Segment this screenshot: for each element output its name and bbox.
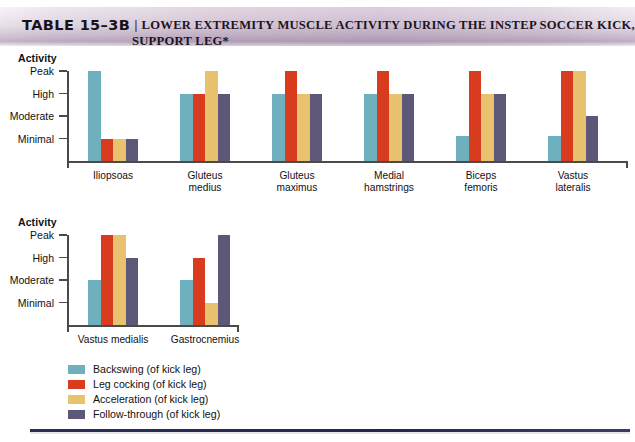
y-axis-tick [59,138,67,140]
legend-label: Follow-through (of kick leg) [93,407,220,422]
legend-label: Leg cocking (of kick leg) [93,377,207,392]
bar [205,303,218,326]
bar [113,139,126,162]
legend-item: Follow-through (of kick leg) [68,407,368,422]
bar [548,136,561,161]
legend-swatch [68,395,85,404]
y-axis-label-moderate: Moderate [10,274,54,286]
bottom-divider-shadow [30,432,630,434]
y-axis-label-peak: Peak [30,65,54,77]
x-axis-category-label: Gluteusmaximus [254,170,340,193]
chart-support-leg-lower: ActivityPeakHighModerateMinimalVastus me… [0,208,635,348]
bar [218,94,231,162]
table-title-line1: LOWER EXTREMITY MUSCLE ACTIVITY DURING T… [142,18,635,32]
x-axis-end-tick [237,325,239,332]
x-axis-category-line: Iliopsoas [70,170,156,182]
x-axis-end-tick [67,161,69,168]
bar [193,94,206,162]
x-axis-line [67,325,239,327]
legend-swatch [68,365,85,374]
chart-axis-title: Activity [18,52,57,64]
legend-swatch [68,410,85,419]
bar [101,235,114,325]
bar [586,116,599,161]
table-header-line1: TABLE 15–3B|LOWER EXTREMITY MUSCLE ACTIV… [22,16,622,33]
x-axis-category-line: Vastus medialis [70,334,156,346]
bar [126,139,139,162]
y-axis-label-high: High [32,88,54,100]
bar [310,94,323,162]
bar [180,94,193,162]
bar [180,280,193,325]
bar [88,280,101,325]
legend-item: Acceleration (of kick leg) [68,392,368,407]
legend-item: Backswing (of kick leg) [68,362,368,377]
bar [469,71,482,161]
x-axis-end-tick [626,161,628,168]
x-axis-category-line: Gastrocnemius [162,334,248,346]
x-axis-category-label: Gluteusmedius [162,170,248,193]
x-axis-category-line: Vastus [530,170,616,182]
bar [285,71,298,161]
bar [205,71,218,161]
y-axis-tick [59,93,67,95]
x-axis-category-label: Iliopsoas [70,170,156,182]
x-axis-line [67,161,628,163]
bar [481,94,494,162]
x-axis-end-tick [67,325,69,332]
table-number: TABLE 15–3B [22,17,130,33]
bar [561,71,574,161]
bar [364,94,377,162]
x-axis-category-line: maximus [254,182,340,194]
bar [494,94,507,162]
x-axis-category-line: Biceps [438,170,524,182]
bar [193,258,206,326]
x-axis-category-line: Medial [346,170,432,182]
y-axis-tick [59,302,67,304]
x-axis-category-label: Medialhamstrings [346,170,432,193]
legend-label: Backswing (of kick leg) [93,362,201,377]
bar [113,235,126,325]
bar [389,94,402,162]
x-axis-category-line: medius [162,182,248,194]
y-axis-label-high: High [32,252,54,264]
x-axis-category-label: Vastus medialis [70,334,156,346]
chart-support-leg-upper: ActivityPeakHighModerateMinimalIliopsoas… [0,52,635,192]
bar [297,94,310,162]
x-axis-category-line: hamstrings [346,182,432,194]
legend-swatch [68,380,85,389]
legend-label: Acceleration (of kick leg) [93,392,208,407]
y-axis-tick [59,279,67,281]
bar [126,258,139,326]
y-axis-tick [59,234,67,236]
x-axis-category-line: Gluteus [162,170,248,182]
x-axis-category-line: femoris [438,182,524,194]
bar [456,136,469,161]
y-axis-tick [59,257,67,259]
bar [573,71,586,161]
y-axis-label-minimal: Minimal [18,297,54,309]
x-axis-category-label: Bicepsfemoris [438,170,524,193]
bar [218,235,231,325]
bar [377,71,390,161]
bar [402,94,415,162]
y-axis-tick [59,70,67,72]
y-axis-line [67,71,69,163]
header-separator: | [130,17,141,32]
x-axis-category-line: Gluteus [254,170,340,182]
table-header-text: TABLE 15–3B|LOWER EXTREMITY MUSCLE ACTIV… [22,16,622,49]
bar [272,94,285,162]
x-axis-category-label: Gastrocnemius [162,334,248,346]
chart-legend: Backswing (of kick leg)Leg cocking (of k… [68,362,368,422]
y-axis-tick [59,115,67,117]
chart-axis-title: Activity [18,216,57,228]
y-axis-label-minimal: Minimal [18,133,54,145]
y-axis-line [67,235,69,327]
table-figure-page: TABLE 15–3B|LOWER EXTREMITY MUSCLE ACTIV… [0,0,635,442]
y-axis-label-moderate: Moderate [10,110,54,122]
table-title-line2: SUPPORT LEG* [132,33,622,49]
bar [101,139,114,162]
legend-item: Leg cocking (of kick leg) [68,377,368,392]
y-axis-label-peak: Peak [30,229,54,241]
table-header-band: TABLE 15–3B|LOWER EXTREMITY MUSCLE ACTIV… [0,7,635,46]
